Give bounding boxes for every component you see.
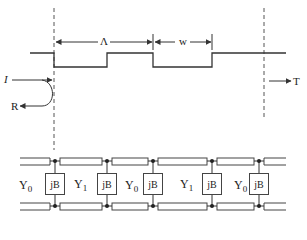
admittance-label-3: Y0: [125, 179, 138, 194]
reflected-arrow: [20, 80, 53, 106]
admittance-label-1: Y0: [19, 179, 32, 194]
admittance-label-2: Y1: [74, 178, 87, 193]
period-label: Λ: [100, 36, 108, 47]
shunt-susceptance-5: jB: [249, 173, 269, 195]
shunt-susceptance-2: jB: [97, 173, 117, 195]
reflected-label: R: [11, 101, 18, 112]
shunt-susceptance-3: jB: [143, 173, 163, 195]
admittance-label-4: Y1: [180, 178, 193, 193]
width-label: w: [179, 36, 187, 47]
incident-label: I: [4, 74, 8, 85]
grating-profile: [30, 53, 286, 67]
transmitted-label: T: [293, 76, 300, 87]
shunt-susceptance-4: jB: [202, 173, 222, 195]
admittance-label-5: Y0: [234, 179, 247, 194]
shunt-susceptance-1: jB: [45, 173, 65, 195]
